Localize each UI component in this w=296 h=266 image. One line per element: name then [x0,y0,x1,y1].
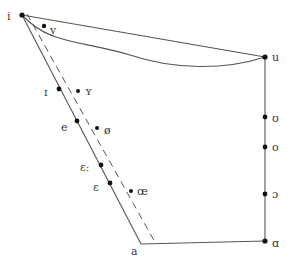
label-i: i [7,10,11,23]
vowel-dot-u [262,54,267,59]
vowel-dot-ʏ [76,89,80,93]
front-rounded-dashed-line [27,14,156,244]
label-œ: œ [137,185,148,198]
rounding-curve [22,15,265,67]
label-ɛː: ɛː [80,161,89,174]
vowel-labels: i u a ɑ ɪ e ɛː ɛ y ʏ ø œ ʊ o ɔ [7,10,279,258]
bottom-edge [141,241,265,244]
front-edge [22,15,141,244]
vowel-dot-œ [129,189,133,193]
vowel-dot-o [263,145,268,150]
label-y: y [49,24,57,37]
label-ɑ: ɑ [272,237,279,250]
top-edge [22,15,265,57]
label-ɛ: ɛ [93,181,99,194]
label-ø: ø [104,124,111,137]
vowel-dot-ɪ [57,87,62,92]
label-ɪ: ɪ [44,86,48,99]
vowel-dot-ɔ [263,192,268,197]
label-ɔ: ɔ [272,188,278,201]
label-e: e [61,121,68,134]
vowel-dot-ø [95,126,99,130]
vowel-dot-ɑ [262,238,267,243]
vowel-dot-e [75,119,80,124]
label-ʏ: ʏ [85,85,92,98]
vowel-dot-ʊ [263,115,268,120]
vowel-chart: i u a ɑ ɪ e ɛː ɛ y ʏ ø œ ʊ o ɔ [0,0,296,266]
label-u: u [272,51,279,64]
label-o: o [272,141,279,154]
quadrilateral-outline [22,14,265,244]
vowel-dot-ɛ [108,181,113,186]
vowel-dot-ɛː [99,163,104,168]
label-ʊ: ʊ [272,112,279,125]
corner-points [19,12,267,243]
label-a: a [131,245,138,258]
vowel-dot-y [42,24,46,28]
vowel-dot-i [19,12,24,17]
